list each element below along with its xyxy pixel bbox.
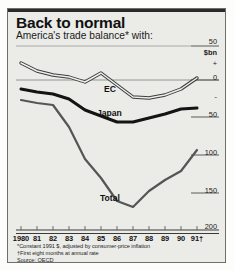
y-axis-label-0: 0: [201, 73, 217, 82]
x-axis-label-84: 84: [77, 234, 93, 243]
series-label-total: Total: [100, 193, 120, 203]
y-axis-unit-label: $bn: [200, 48, 217, 57]
y-axis-minus-sign: -: [201, 92, 217, 101]
x-axis-label-89: 89: [157, 234, 173, 243]
y-axis-label-50-negative: 50: [201, 110, 217, 119]
x-axis-label-87: 87: [125, 234, 141, 243]
series-label-ec: EC: [104, 84, 116, 94]
x-axis-label-91: 91†: [188, 234, 206, 243]
y-axis-label-150: 150: [199, 186, 217, 195]
x-axis-label-81: 81: [29, 234, 45, 243]
x-axis-label-90: 90: [173, 234, 189, 243]
footnote-constant-dollars: *Constant 1991 $, adjusted by consumer-p…: [17, 243, 150, 249]
footnote-divider: [16, 233, 219, 234]
x-axis-label-86: 86: [109, 234, 125, 243]
y-axis-plus-sign: +: [201, 59, 217, 68]
x-axis-label-83: 83: [61, 234, 77, 243]
y-axis-label-100: 100: [199, 148, 217, 157]
series-label-japan: Japan: [97, 108, 122, 118]
trade-balance-line-chart: [8, 9, 226, 263]
x-axis-label-88: 88: [141, 234, 157, 243]
x-tick-marks: [21, 226, 197, 230]
y-axis-label-50-positive: 50: [201, 37, 217, 46]
source-note: Source: OECD: [17, 257, 53, 263]
y-axis-label-200: 200: [199, 222, 217, 231]
chart-card: Back to normal America's trade balance* …: [7, 8, 226, 263]
x-axis-label-82: 82: [45, 234, 61, 243]
x-axis-label-85: 85: [93, 234, 109, 243]
footnote-annual-rate: †First eight months at annual rate: [17, 250, 99, 256]
